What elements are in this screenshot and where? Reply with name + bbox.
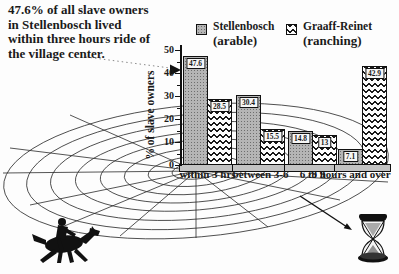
bar-value-label: 14.8: [291, 133, 310, 144]
bar-graaff-reinet-1: 28.5: [207, 99, 232, 165]
bar-stellenbosch-4: 7.1: [338, 149, 363, 165]
legend-swatch-stellenbosch-icon: [196, 24, 207, 35]
bar-value-label: 7.1: [343, 151, 358, 162]
bar-graaff-reinet-3: 13: [312, 135, 337, 165]
figure-slave-owners-distance-chart: 47.6% of all slave owners in Stellenbosc…: [0, 0, 399, 274]
legend-label-stellenbosch: Stellenbosch: [213, 20, 274, 32]
bar-stellenbosch-1: 47.6: [183, 56, 208, 165]
bar-value-label: 15.5: [263, 131, 282, 142]
legend-label-graaff-reinet: Graaff-Reinet: [303, 20, 372, 32]
y-axis-minor-tick: [177, 108, 181, 109]
bar-graaff-reinet-2: 15.5: [260, 129, 285, 165]
y-axis-minor-tick: [177, 131, 181, 132]
bar-stellenbosch-2: 30.4: [236, 95, 261, 165]
bar-value-label: 30.4: [239, 97, 258, 108]
bar-value-label: 47.6: [186, 58, 205, 69]
legend-sublabel-stellenbosch: (arable): [213, 33, 257, 49]
legend-swatch-graaff-reinet-icon: [286, 24, 297, 35]
y-axis-minor-tick: [177, 154, 181, 155]
bar-graaff-reinet-4: 42.9: [362, 66, 387, 165]
x-axis-category-label: within 3 hrs: [179, 168, 235, 180]
bar-value-label: 28.5: [210, 101, 229, 112]
bar-value-label: 42.9: [365, 68, 384, 79]
y-axis-tick: [175, 119, 181, 120]
legend-sublabel-graaff-reinet: (ranching): [303, 33, 362, 49]
x-axis-category-label: 9 hours and over: [311, 168, 390, 180]
y-axis-tick: [175, 73, 181, 74]
y-axis-tick: [175, 165, 181, 166]
y-axis-title: % of slave owners: [144, 51, 158, 179]
y-axis-tick: [175, 142, 181, 143]
y-axis-minor-tick: [177, 85, 181, 86]
y-axis-minor-tick: [177, 62, 181, 63]
y-axis-line: [180, 45, 182, 166]
bar-value-label: 13: [318, 137, 332, 148]
x-axis-category-label: between 3-6: [233, 168, 289, 180]
y-axis-tick: [175, 96, 181, 97]
bar-stellenbosch-3: 14.8: [288, 131, 313, 165]
